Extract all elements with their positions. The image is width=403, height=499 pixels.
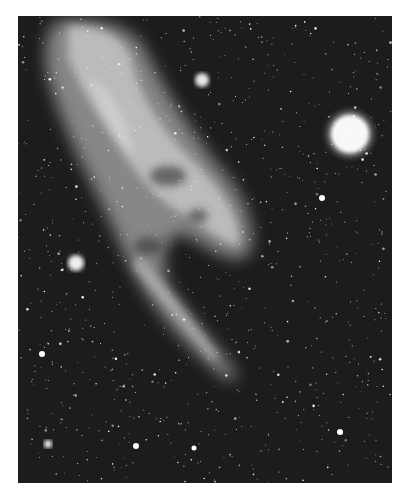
nebula-photo	[18, 16, 392, 483]
nebula-image	[18, 16, 392, 483]
